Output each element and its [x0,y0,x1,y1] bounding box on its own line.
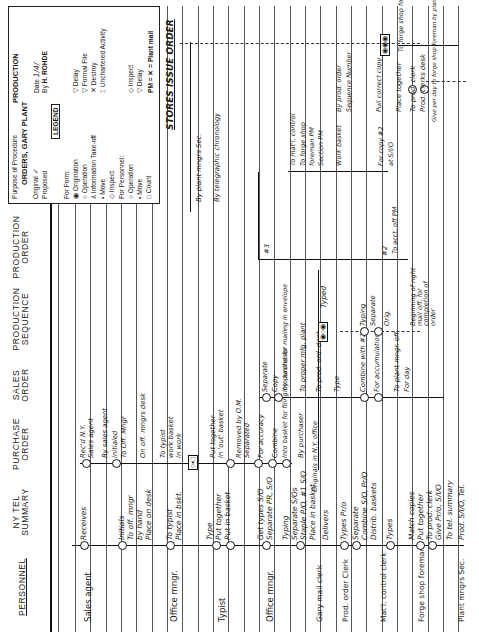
step-label: To tel. summary [446,480,453,540]
step-label: To plant mngr. off [394,332,401,392]
col-header-nytel: NY TEL SUMMARY [12,482,30,542]
col-header-personnel: PERSONNEL [18,552,27,622]
move-icon: • [136,197,143,199]
step-label: Work basket [336,125,343,166]
step-label: Sequence Number [346,52,353,112]
legend-item: ○ Operation [127,164,134,199]
connector-line [190,42,191,212]
legend-item: ▽ Delay [72,69,80,93]
operation-symbol [226,459,235,468]
operation-symbol [80,541,89,550]
legend-for-form: For Form: [63,170,70,199]
col-header-production-sequence: PRODUCTION SEQUENCE [12,284,30,354]
legend-title: LEGEND [51,104,60,139]
operation-symbol [262,393,271,402]
inspect-icon: ◇ [127,88,134,93]
stores-issue-title: STORES ISSUE ORDER [166,19,175,130]
operation-icon: ○ [81,195,88,199]
delay-icon: ▽ [136,88,143,93]
rule [244,6,245,632]
operation-symbol [352,541,361,550]
step-label: To typist [166,509,173,540]
role-office-manager: Office mngr. [170,570,179,622]
step-label: By telegraphic chronology [214,113,221,202]
step-label: By prod. order [336,65,343,112]
operation-symbol [386,541,395,550]
step-label: Combine [272,428,279,458]
legend-item: ✕ Destroy [90,62,98,93]
step-label: at S/I/O [388,142,395,166]
step-label: Into basket for mailing in envelope [282,284,288,392]
step-label: Prod. clerks desk [420,54,427,112]
step-label: By plant mngrs Sec. [196,134,203,202]
role-typist: Typist [218,598,227,622]
step-label: #3 [264,244,271,254]
step-label: To prod. clerk [410,66,417,112]
step-label: Place on desk [145,489,152,540]
role-prod-order-clerk: Prod. order Clerk [342,559,350,622]
step-label: Separate S/Os [291,487,298,540]
step-label: Beginning of right mail off. for complet… [410,266,436,326]
step-label: Give Pr/o, S/I/O [435,484,442,540]
origination-icon: ◉ [72,193,79,199]
step-label: Types Pr/o [340,502,347,540]
legend-item: ▽ Formal File [81,53,89,93]
step-label: Separated [244,423,251,458]
role-plant-mngrs-sec: Plant mngrs Sec. [458,559,466,622]
col-header-purchase-order: PURCHASE ORDER [12,414,30,474]
legend-item: ◉ Origination [72,159,80,199]
role-sales-agent: Sales agent [84,572,93,622]
rule [443,6,444,632]
step-label: Orig. [384,309,391,326]
move-icon: • [99,197,106,199]
step-label: To acct. off PM [392,207,399,254]
step-label: Type [206,523,213,540]
step-label: For accuracy [258,414,265,458]
step-label: Separate PR, S/O [266,477,273,540]
forge-shop-line [398,45,458,46]
count-box: ○•□ [188,455,198,470]
step-label: Distrib. baskets [370,482,377,540]
rule [274,6,275,632]
step-label: Separate [262,361,269,392]
step-label: Initialed [112,431,119,458]
role-forge-shop-foreman: Forge shop foreman [418,547,426,622]
step-label: by hand [136,510,143,540]
sales-order-flow-line [260,397,444,398]
date-field: Date 1/4/ [32,63,41,93]
operation-symbol [274,393,283,402]
original-label: Original ✓ [32,168,40,199]
step-label: Match copies [408,491,415,540]
step-label: Staple P/O, #1 S/O [300,471,307,540]
legend-item: ⅄ Information Take-off [90,135,98,199]
count-box: ◉◉◉ [380,34,390,56]
step-label: Combine S/O, Pr/O [361,472,368,540]
legend-item: ▽ Delay [136,69,144,93]
operation-symbol [374,327,383,336]
step-label: In work [176,433,183,458]
operation-symbol [360,393,369,402]
count-icon: □ [145,195,152,199]
step-label: Types [386,519,393,540]
step-label: By sales agent [102,408,109,458]
operation-symbol [416,541,425,550]
step-label: Copy [272,375,279,392]
operation-symbol [112,459,121,468]
step-label: To forge shop [300,122,307,166]
delay-icon: ▽ [72,88,79,93]
operation-symbol [262,541,271,550]
destroy-icon: ✕ [90,87,97,93]
inspect-icon: ◇ [108,194,115,199]
rule [198,6,199,632]
step-label: Put together [215,494,222,540]
legend-item: • Move [136,179,143,199]
step-label: Get types S/O [257,489,264,540]
operation-symbol [166,541,175,550]
legend-item: □ Count [145,176,152,199]
connector-line [258,172,259,260]
unchartered-icon: ⌶ [99,89,106,93]
operation-symbol [282,459,291,468]
production-order-flow-line [258,259,408,260]
legend-item: ◇ Inspect [127,65,135,93]
purpose-value-2: ORDERS, GARY PLANT [20,102,29,185]
